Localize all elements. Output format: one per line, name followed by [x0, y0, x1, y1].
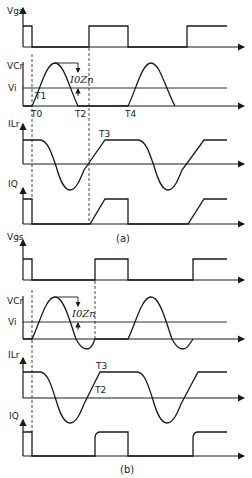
vgs-waveform [23, 26, 227, 47]
vgs-label: Vgs [7, 6, 24, 16]
vc-trace-b: VCr Vi I0Zn [7, 296, 244, 349]
ilr-label: ILr [8, 350, 20, 360]
t0-label: T0 [30, 109, 42, 119]
i0zn-label: I0Zn [69, 74, 94, 85]
iq-waveform [23, 432, 227, 456]
t3-label: T3 [95, 361, 107, 371]
panel-a: Vgs VCr Vi I0Zn T1 T0 T2 T4 ILr [7, 6, 244, 244]
vc-label: VCr [7, 296, 23, 306]
i0zn-label: I0Zn [71, 308, 96, 319]
ilr-trace-b: ILr T3 T2 [8, 350, 244, 423]
vc-label: VCr [7, 61, 23, 71]
ilr-label: ILr [8, 119, 20, 129]
vi-label: Vi [8, 83, 16, 93]
caption-a: (a) [116, 233, 130, 244]
iq-label: IQ [9, 411, 19, 421]
vc-waveform [23, 297, 193, 349]
iq-trace-a: IQ [8, 179, 244, 224]
vgs-waveform [23, 259, 227, 280]
iq-trace-b: IQ [9, 411, 244, 456]
ilr-trace-a: ILr T3 [8, 119, 244, 190]
panel-b: Vgs VCr Vi I0Zn ILr T3 T2 [7, 232, 244, 475]
vgs-trace-a: Vgs [7, 6, 244, 47]
waveform-diagram: Vgs VCr Vi I0Zn T1 T0 T2 T4 ILr [0, 0, 252, 478]
t4-label: T4 [124, 109, 136, 119]
vc-trace-a: VCr Vi I0Zn T1 T0 T2 T4 [7, 61, 244, 119]
ilr-waveform [23, 140, 227, 190]
t2-label: T2 [74, 109, 86, 119]
t2-label: T2 [94, 385, 106, 395]
t1-label: T1 [34, 91, 46, 101]
vi-label: Vi [8, 317, 16, 327]
vgs-label: Vgs [7, 232, 24, 242]
caption-b: (b) [120, 464, 134, 475]
iq-label: IQ [8, 179, 18, 189]
iq-waveform [23, 199, 227, 224]
t3-label: T3 [98, 129, 110, 139]
